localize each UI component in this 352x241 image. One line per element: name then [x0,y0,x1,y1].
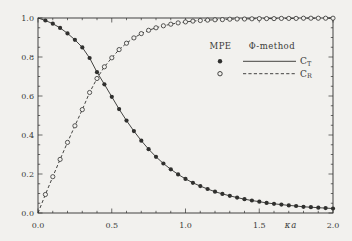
x-tick-label: 0.5 [105,221,118,230]
c_r-data-point-open-circle [73,124,77,128]
c_r-data-point-open-circle [309,16,313,20]
c_r-data-point-open-circle [80,108,84,112]
legend: MPE Φ-method CT CR [209,41,312,80]
legend-label-ct-sub: T [307,60,312,68]
c_r-data-point-open-circle [257,17,261,21]
legend-open-circle-marker [218,72,222,76]
c_t-data-point-filled-circle [331,206,335,210]
c_r-data-point-open-circle [88,90,92,94]
c_t-data-point-filled-circle [88,56,92,60]
legend-label-ct: CT [300,56,312,68]
c_t-data-point-filled-circle [58,26,62,30]
y-tick-label: 1.0 [21,14,34,23]
c_t-data-point-filled-circle [124,119,128,123]
c_r-data-point-open-circle [169,22,173,26]
y-tick-label: 0.4 [21,131,34,140]
c_t-data-point-filled-circle [191,181,195,185]
c_t-data-point-filled-circle [117,107,121,111]
c_t-data-point-filled-circle [132,129,136,133]
c_t-data-point-filled-circle [294,204,298,208]
c_r-data-point-open-circle [95,76,99,80]
legend-label-cr: CR [300,69,313,81]
c_r-data-point-open-circle [51,175,55,179]
c_t-data-point-filled-circle [220,192,224,196]
c_r-data-point-open-circle [65,140,69,144]
c_t-data-point-filled-circle [139,139,143,143]
x-axis-label: κa [284,220,298,230]
c_r-data-point-open-circle [139,31,143,35]
c_t-data-point-filled-circle [43,18,47,22]
y-tick-label: 0.0 [21,209,34,218]
c_r-data-point-open-circle [154,26,158,30]
c_r-data-point-open-circle [206,18,210,22]
c_r-data-point-open-circle [235,17,239,21]
c_t-data-point-filled-circle [102,82,106,86]
c_r-data-point-open-circle [324,16,328,20]
c_r-data-point-open-circle [287,16,291,20]
x-tick-label: 1.5 [253,221,266,230]
c_r-data-point-open-circle [102,65,106,69]
x-tick-label: 0.0 [32,221,45,230]
y-tick-label: 0.8 [21,53,34,62]
c_r-data-point-open-circle [265,17,269,21]
c_r-data-point-open-circle [191,19,195,23]
c_t-data-point-filled-circle [110,95,114,99]
c_t-data-point-filled-circle [324,206,328,210]
c_r-data-point-open-circle [228,17,232,21]
c_t-data-point-filled-circle [161,161,165,165]
c_t-data-point-filled-circle [257,200,261,204]
c_t-data-point-filled-circle [147,147,151,151]
c_r-data-point-open-circle [147,28,151,32]
c_t-data-point-filled-circle [272,202,276,206]
x-tick-label: 2.0 [327,221,340,230]
y-axis-tick-labels: 0.0 0.2 0.4 0.6 0.8 1.0 [21,14,34,218]
c_r-data-point-open-circle [43,192,47,196]
x-tick-label: 1.0 [179,221,192,230]
c_r-data-point-open-circle [301,16,305,20]
c_r-data-point-open-circle [176,21,180,25]
c_t-data-point-filled-circle [51,22,55,26]
c_t-data-point-filled-circle [316,206,320,210]
line-chart: 0.0 0.2 0.4 0.6 0.8 1.0 0.0 0.5 1.0 1.5 … [0,0,352,241]
c_r-data-point-open-circle [220,18,224,22]
c_t-data-point-filled-circle [228,194,232,198]
c_t-data-point-filled-circle [213,190,217,194]
c_t-data-point-filled-circle [242,197,246,201]
c_r-data-point-open-circle [316,16,320,20]
y-tick-label: 0.6 [21,92,34,101]
c_r-data-point-open-circle [250,17,254,21]
c_t-data-point-filled-circle [309,205,313,209]
c_t-data-point-filled-circle [176,172,180,176]
c_r-data-point-open-circle [294,16,298,20]
c_r-data-point-open-circle [117,48,121,52]
c_t-data-point-filled-circle [279,203,283,207]
c_r-data-point-open-circle [198,18,202,22]
c_t-data-point-filled-circle [198,184,202,188]
c_t-data-point-filled-circle [235,196,239,200]
c_r-data-point-open-circle [58,157,62,161]
c_t-data-point-filled-circle [301,205,305,209]
legend-column-header-phi-method: Φ-method [249,41,295,51]
legend-label-cr-sub: R [307,72,313,80]
c_t-data-point-filled-circle [250,198,254,202]
c_r-data-point-open-circle [161,24,165,28]
c_r-data-point-open-circle [132,36,136,40]
c_r-data-point-open-circle [213,18,217,22]
legend-column-header-mpe: MPE [209,41,231,51]
c_t-data-point-filled-circle [183,177,187,181]
c_t-data-point-filled-circle [265,201,269,205]
c_r-data-point-open-circle [272,17,276,21]
c_r-data-point-open-circle [279,16,283,20]
legend-filled-circle-marker [218,59,222,63]
y-tick-label: 0.2 [21,170,34,179]
c_t-data-point-filled-circle [169,167,173,171]
scientific-figure: 0.0 0.2 0.4 0.6 0.8 1.0 0.0 0.5 1.0 1.5 … [0,0,352,241]
c_r-data-point-open-circle [183,20,187,24]
c_t-data-point-filled-circle [65,31,69,35]
c_r-data-point-open-circle [242,17,246,21]
c_t-data-point-filled-circle [287,203,291,207]
c_r-data-point-open-circle [124,41,128,45]
c_r-data-point-open-circle [331,16,335,20]
c_t-data-point-filled-circle [80,45,84,49]
c_t-data-point-filled-circle [73,38,77,42]
